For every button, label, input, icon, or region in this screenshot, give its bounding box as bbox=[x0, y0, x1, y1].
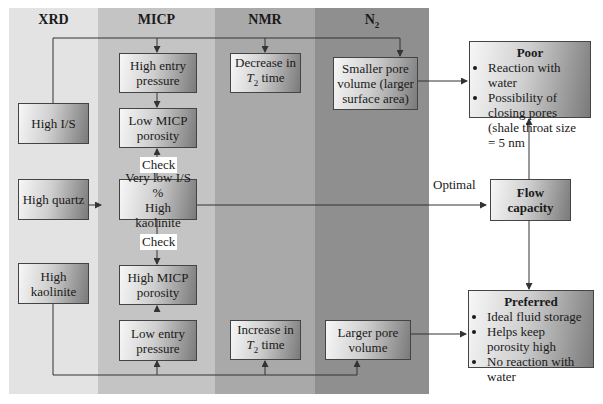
box-very-low-is-high-kaolinite: Very low I/S % High kaolinite bbox=[119, 179, 197, 220]
box-high-kaolinite-xrd: High kaolinite bbox=[18, 263, 89, 304]
box-low-micp-porosity: Low MICP porosity bbox=[119, 108, 197, 148]
box-poor: Poor Reaction with water Possibility of … bbox=[469, 41, 591, 118]
list-item: No reaction with water bbox=[487, 354, 587, 384]
optimal-label: Optimal bbox=[433, 177, 476, 193]
list-item: Helps keep porosity high bbox=[487, 324, 587, 354]
check-label-top: Check bbox=[140, 157, 177, 173]
box-flow-capacity: Flow capacity bbox=[490, 179, 571, 221]
poor-list: Reaction with water Possibility of closi… bbox=[476, 60, 584, 150]
box-preferred: Preferred Ideal fluid storage Helps keep… bbox=[468, 290, 594, 368]
box-high-entry-pressure: High entry pressure bbox=[119, 53, 197, 93]
list-item: Possibility of closing pores (shale thro… bbox=[488, 90, 584, 150]
box-high-micp-porosity: High MICP porosity bbox=[119, 265, 197, 305]
list-item: Ideal fluid storage bbox=[487, 309, 587, 324]
box-larger-pore-volume: Larger pore volume bbox=[325, 320, 411, 360]
preferred-list: Ideal fluid storage Helps keep porosity … bbox=[475, 309, 587, 384]
preferred-title: Preferred bbox=[504, 294, 558, 309]
poor-title: Poor bbox=[517, 45, 544, 60]
box-smaller-pore-volume: Smaller pore volume (larger surface area… bbox=[333, 57, 418, 110]
list-item: Reaction with water bbox=[488, 60, 584, 90]
box-high-quartz: High quartz bbox=[18, 179, 89, 220]
box-low-entry-pressure: Low entry pressure bbox=[119, 320, 197, 361]
box-high-is: High I/S bbox=[18, 103, 89, 144]
box-increase-t2-time: Increase in T2 time bbox=[230, 320, 301, 360]
check-label-bottom: Check bbox=[140, 234, 177, 250]
box-decrease-t2-time: Decrease in T2 time bbox=[230, 53, 301, 93]
